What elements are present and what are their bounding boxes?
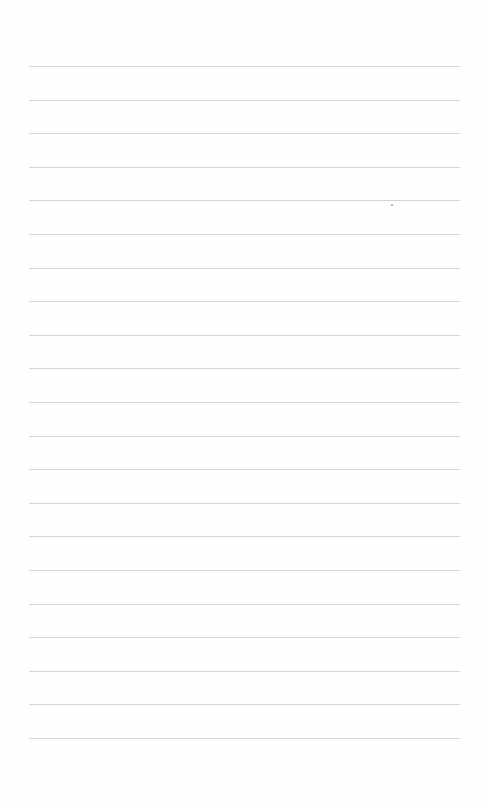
ruled-line <box>29 335 460 336</box>
lined-paper-sheet <box>0 0 484 802</box>
ruled-line <box>29 604 460 605</box>
ruled-line <box>29 503 460 504</box>
ruled-line <box>29 536 460 537</box>
ruled-line <box>29 368 460 369</box>
ruled-line <box>29 133 460 134</box>
ruled-line <box>29 402 460 403</box>
ruled-line <box>29 167 460 168</box>
ruled-line <box>29 570 460 571</box>
ruled-line <box>29 469 460 470</box>
ruled-line <box>29 301 460 302</box>
ruled-line <box>29 66 460 67</box>
ruled-line <box>29 200 460 201</box>
ruled-line <box>29 234 460 235</box>
ruled-line <box>29 637 460 638</box>
ruled-line <box>29 671 460 672</box>
ruled-line <box>29 436 460 437</box>
ruled-line <box>29 704 460 705</box>
ruled-line <box>29 738 460 739</box>
paper-speck <box>391 204 393 206</box>
ruled-line <box>29 100 460 101</box>
ruled-line <box>29 268 460 269</box>
